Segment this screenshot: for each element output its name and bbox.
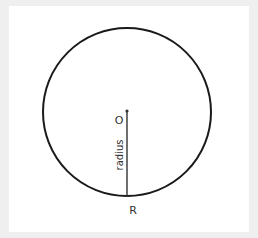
- radius-label: radius: [114, 140, 125, 171]
- circle-diagram: O R radius: [0, 0, 258, 238]
- point-label: R: [129, 204, 137, 217]
- center-label: O: [115, 114, 124, 127]
- center-point: [125, 109, 128, 112]
